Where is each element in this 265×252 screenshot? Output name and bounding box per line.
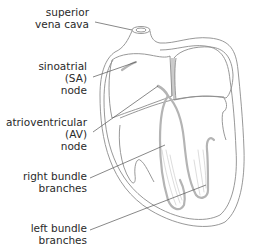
leader-superior-vena-cava: [95, 22, 132, 30]
leader-lines: [90, 22, 206, 230]
leader-sa-node: [93, 62, 136, 77]
leader-left-bundle: [90, 185, 206, 230]
label-left-bundle-branches: left bundle branches: [31, 222, 87, 246]
leader-av-node: [93, 86, 158, 132]
label-superior-vena-cava: superior vena cava: [35, 6, 89, 30]
label-sinoatrial-node: sinoatrial (SA) node: [38, 60, 87, 96]
heart-outline: [100, 27, 244, 227]
label-right-bundle-branches: right bundle branches: [23, 170, 87, 194]
leader-right-bundle: [90, 145, 165, 178]
label-atrioventricular-node: atrioventricular (AV) node: [6, 116, 87, 152]
